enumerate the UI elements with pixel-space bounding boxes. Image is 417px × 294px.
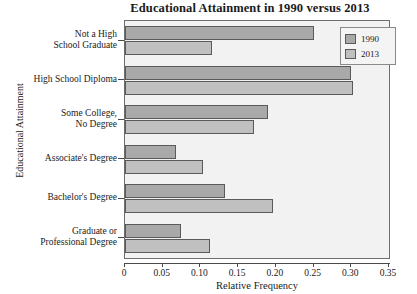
x-axis-title: Relative Frequency — [124, 280, 390, 291]
x-tick-label-2: 0.10 — [179, 268, 219, 278]
y-axis-label-4: Bachelor's Degree — [0, 192, 117, 203]
y-tick-4 — [118, 198, 124, 199]
y-axis-label-line: Graduate or — [0, 226, 117, 237]
x-tick-2 — [199, 263, 200, 267]
y-tick-3 — [118, 158, 124, 159]
y-tick-0 — [118, 40, 124, 41]
x-tick-label-7: 0.35 — [368, 268, 408, 278]
y-axis-category-labels: Not a HighSchool GraduateHigh School Dip… — [0, 20, 121, 259]
x-tick-0 — [124, 263, 125, 267]
bar-1990-cat2 — [125, 105, 268, 119]
y-axis-label-5: Graduate orProfessional Degree — [0, 226, 117, 248]
y-axis-label-0: Not a HighSchool Graduate — [0, 29, 117, 51]
y-axis-label-line: No Degree — [0, 119, 117, 130]
x-tick-3 — [237, 263, 238, 267]
y-axis-label-line: Not a High — [0, 29, 117, 40]
bar-2013-cat4 — [125, 199, 273, 213]
x-tick-label-4: 0.20 — [255, 268, 295, 278]
x-tick-5 — [313, 263, 314, 267]
x-tick-label-6: 0.30 — [330, 268, 370, 278]
bar-2013-cat5 — [125, 239, 210, 253]
bar-1990-cat1 — [125, 66, 351, 80]
bar-2013-cat0 — [125, 41, 212, 55]
x-tick-label-0: 0 — [104, 268, 144, 278]
y-axis-label-line: Professional Degree — [0, 237, 117, 248]
x-tick-7 — [388, 263, 389, 267]
y-axis-label-line: School Graduate — [0, 40, 117, 51]
x-tick-label-3: 0.15 — [217, 268, 257, 278]
y-axis-label-line: High School Diploma — [0, 74, 117, 85]
bar-2013-cat3 — [125, 160, 203, 174]
x-tick-label-5: 0.25 — [293, 268, 333, 278]
y-axis-label-2: Some College,No Degree — [0, 108, 117, 130]
chart-title: Educational Attainment in 1990 versus 20… — [90, 1, 410, 16]
bar-2013-cat1 — [125, 81, 353, 95]
legend: 1990 2013 — [340, 27, 396, 65]
y-axis-label-line: Bachelor's Degree — [0, 192, 117, 203]
x-tick-6 — [350, 263, 351, 267]
x-tick-label-1: 0.05 — [142, 268, 182, 278]
chart-container: Educational Attainment in 1990 versus 20… — [0, 0, 417, 294]
bar-2013-cat2 — [125, 120, 254, 134]
legend-item-2013[interactable]: 2013 — [345, 46, 391, 61]
legend-label-1990: 1990 — [361, 34, 379, 44]
y-axis-label-3: Associate's Degree — [0, 153, 117, 164]
bar-1990-cat4 — [125, 184, 225, 198]
y-tick-2 — [118, 119, 124, 120]
y-axis-label-line: Associate's Degree — [0, 153, 117, 164]
y-axis-label-1: High School Diploma — [0, 74, 117, 85]
y-tick-1 — [118, 79, 124, 80]
y-tick-5 — [118, 237, 124, 238]
bar-1990-cat0 — [125, 26, 314, 40]
legend-swatch-2013-icon — [345, 49, 356, 59]
y-axis-label-line: Some College, — [0, 108, 117, 119]
x-tick-4 — [275, 263, 276, 267]
legend-label-2013: 2013 — [361, 49, 379, 59]
legend-swatch-1990-icon — [345, 34, 356, 44]
legend-item-1990[interactable]: 1990 — [345, 31, 391, 46]
x-tick-1 — [162, 263, 163, 267]
bar-1990-cat5 — [125, 224, 181, 238]
bar-1990-cat3 — [125, 145, 176, 159]
